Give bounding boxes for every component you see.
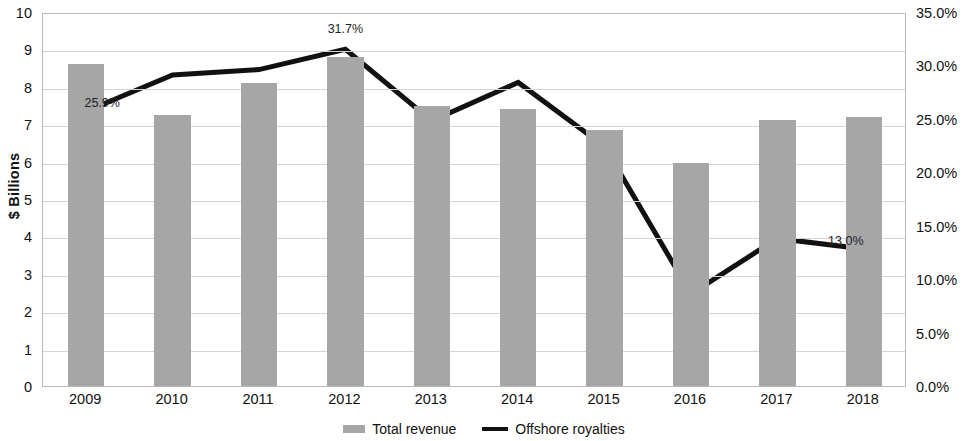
y-tick-6: 6 — [24, 156, 32, 171]
y2-tick-35.0%: 35.0% — [916, 6, 957, 21]
combo-chart: $ Billions 012345678910 0.0%5.0%10.0%15.… — [0, 0, 968, 441]
data-label-2018: 13.0% — [828, 235, 863, 248]
bar-2012 — [327, 57, 363, 386]
y2-tick-20.0%: 20.0% — [916, 166, 957, 181]
y-tick-1: 1 — [24, 343, 32, 358]
y-tick-8: 8 — [24, 81, 32, 96]
x-tick-2017: 2017 — [760, 392, 792, 407]
x-tick-2014: 2014 — [501, 392, 533, 407]
y2-tick-5.0%: 5.0% — [916, 327, 949, 342]
bar-2010 — [154, 115, 190, 386]
legend-item-1[interactable]: Total revenue — [343, 422, 456, 436]
y-tick-5: 5 — [24, 193, 32, 208]
y-tick-2: 2 — [24, 305, 32, 320]
y2-tick-10.0%: 10.0% — [916, 273, 957, 288]
y-tick-4: 4 — [24, 230, 32, 245]
y-tick-9: 9 — [24, 43, 32, 58]
legend-bar-swatch-icon — [343, 425, 365, 433]
y-tick-0: 0 — [24, 380, 32, 395]
legend-line-swatch-icon — [482, 427, 508, 431]
bar-2015 — [586, 130, 622, 386]
x-tick-2018: 2018 — [847, 392, 879, 407]
x-tick-2011: 2011 — [242, 392, 273, 407]
x-tick-2015: 2015 — [587, 392, 619, 407]
data-label-2012: 31.7% — [328, 23, 363, 36]
y-tick-10: 10 — [16, 6, 32, 21]
x-tick-2010: 2010 — [155, 392, 187, 407]
x-tick-2012: 2012 — [328, 392, 360, 407]
y-axis-right-ticks: 0.0%5.0%10.0%15.0%20.0%25.0%30.0%35.0% — [912, 0, 968, 441]
legend-item-2[interactable]: Offshore royalties — [482, 422, 624, 436]
y-tick-7: 7 — [24, 118, 32, 133]
gridline — [43, 51, 905, 52]
legend-label: Total revenue — [372, 422, 456, 436]
y-axis-left-ticks: 012345678910 — [0, 0, 38, 441]
bar-2018 — [846, 117, 882, 386]
bar-2014 — [500, 109, 536, 386]
y2-tick-25.0%: 25.0% — [916, 113, 957, 128]
y2-tick-30.0%: 30.0% — [916, 59, 957, 74]
bar-2011 — [241, 83, 277, 386]
y2-tick-0.0%: 0.0% — [916, 380, 949, 395]
plot-area: 25.9%31.7%13.0% — [42, 13, 906, 387]
bar-2017 — [759, 120, 795, 386]
royalties-polyline — [86, 49, 864, 294]
y-tick-3: 3 — [24, 268, 32, 283]
gridline — [43, 89, 905, 90]
x-axis-labels: 2009201020112012201320142015201620172018 — [42, 392, 906, 414]
chart-legend: Total revenueOffshore royalties — [0, 418, 968, 440]
bar-2013 — [414, 106, 450, 387]
bar-2016 — [673, 163, 709, 386]
y2-tick-15.0%: 15.0% — [916, 220, 957, 235]
bar-2009 — [68, 64, 104, 386]
legend-label: Offshore royalties — [515, 422, 624, 436]
data-label-2009: 25.9% — [84, 97, 119, 110]
x-tick-2013: 2013 — [415, 392, 447, 407]
x-tick-2016: 2016 — [674, 392, 706, 407]
x-tick-2009: 2009 — [69, 392, 101, 407]
